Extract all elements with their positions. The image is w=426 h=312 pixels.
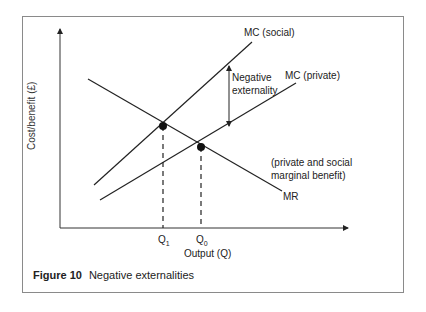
- mr-note-line1: (private and social: [271, 157, 352, 169]
- externality-label-line2: externality: [232, 85, 278, 97]
- figure-caption: Figure 10Negative externalities: [33, 269, 194, 281]
- private-equilibrium-point: [197, 143, 205, 151]
- mc-social-curve: [94, 42, 252, 185]
- y-axis-label: Cost/benefit (£): [26, 82, 37, 150]
- externality-label-line1: Negative: [232, 72, 271, 84]
- figure-number: Figure 10: [33, 269, 82, 281]
- diagram-canvas: [0, 0, 426, 312]
- q1-label: Q1: [158, 234, 170, 250]
- social-equilibrium-point: [159, 122, 167, 130]
- mr-note-line2: marginal benefit): [271, 170, 345, 182]
- figure-title: Negative externalities: [89, 269, 194, 281]
- mc-private-label: MC (private): [285, 70, 340, 82]
- mc-social-label: MC (social): [244, 27, 295, 39]
- mr-label: MR: [283, 191, 299, 203]
- x-axis-label: Output (Q): [184, 248, 231, 260]
